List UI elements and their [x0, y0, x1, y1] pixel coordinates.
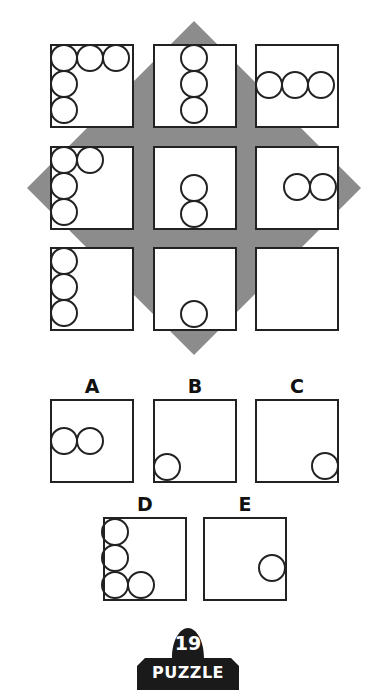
option-d[interactable] — [102, 518, 186, 600]
option-b[interactable] — [154, 400, 236, 482]
answer-options — [51, 400, 338, 600]
option-c-frame[interactable] — [256, 400, 338, 482]
cell-1-3 — [256, 45, 338, 127]
option-a[interactable] — [51, 400, 133, 482]
cell-2-1 — [51, 147, 133, 229]
option-a-frame[interactable] — [51, 400, 133, 482]
cell-3-1 — [51, 248, 133, 330]
cell-3-2 — [154, 248, 236, 330]
option-label-b[interactable]: B — [175, 376, 215, 396]
cell-2-1-frame — [51, 147, 133, 229]
option-e-frame[interactable] — [204, 518, 286, 600]
option-c[interactable] — [256, 400, 338, 482]
puzzle-title: PUZZLE — [137, 663, 239, 682]
cell-3-3 — [256, 248, 338, 330]
cell-1-2-frame — [154, 45, 236, 127]
cell-2-2 — [154, 147, 236, 229]
option-label-a[interactable]: A — [72, 376, 112, 396]
cell-2-3 — [256, 147, 338, 229]
cell-2-3-frame — [256, 147, 338, 229]
cell-1-1-frame — [51, 45, 133, 127]
puzzle-canvas — [0, 0, 375, 696]
option-b-frame[interactable] — [154, 400, 236, 482]
puzzle-number-badge: 19 PUZZLE — [137, 628, 239, 690]
puzzle-number: 19 — [137, 632, 239, 654]
cell-3-2-frame — [154, 248, 236, 330]
option-label-d[interactable]: D — [125, 494, 165, 514]
puzzle-grid — [51, 45, 338, 330]
cell-3-1-frame — [51, 248, 133, 330]
option-label-c[interactable]: C — [277, 376, 317, 396]
cell-3-3-frame — [256, 248, 338, 330]
option-label-e[interactable]: E — [225, 494, 265, 514]
cell-1-3-frame — [256, 45, 338, 127]
cell-1-1 — [51, 45, 133, 127]
option-e[interactable] — [204, 518, 286, 600]
cell-2-2-frame — [154, 147, 236, 229]
option-d-frame[interactable] — [104, 518, 186, 600]
cell-1-2 — [154, 45, 236, 127]
